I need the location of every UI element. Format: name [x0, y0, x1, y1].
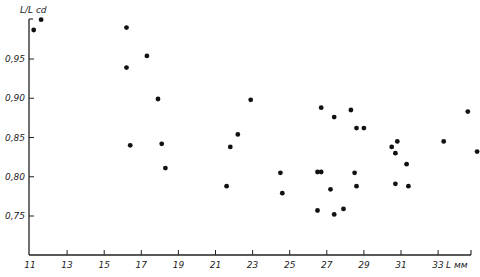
data-point — [465, 109, 470, 114]
y-tick-label: 0,80 — [5, 172, 25, 182]
data-point — [475, 149, 480, 154]
data-point — [124, 25, 129, 30]
data-point — [224, 184, 229, 189]
x-tick-label: 15 — [98, 260, 110, 270]
data-point — [319, 170, 324, 175]
data-point — [156, 97, 161, 102]
data-point — [349, 108, 354, 113]
data-point — [235, 132, 240, 137]
data-point — [319, 105, 324, 110]
x-tick-label: 17 — [136, 260, 148, 270]
x-tick-label: 23 — [247, 260, 259, 270]
y-tick-label: 0,75 — [5, 211, 25, 221]
x-tick-label: 27 — [321, 260, 333, 270]
axes — [29, 19, 471, 255]
x-tick-label: 33 — [432, 260, 444, 270]
data-point — [332, 115, 337, 120]
data-point — [406, 184, 411, 189]
data-point — [362, 126, 367, 131]
x-tick-label: 31 — [395, 260, 406, 270]
data-point — [404, 162, 409, 167]
data-point — [395, 139, 400, 144]
y-axis-title: L/L cd — [20, 5, 47, 15]
x-tick-label: 11 — [24, 260, 35, 270]
x-tick-label: 25 — [284, 260, 296, 270]
scatter-chart: 1113151719212325272931330,750,800,850,90… — [0, 0, 480, 277]
data-point — [332, 212, 337, 217]
data-point — [315, 208, 320, 213]
data-point — [278, 170, 283, 175]
x-tick-label: 21 — [210, 260, 221, 270]
data-point — [354, 126, 359, 131]
data-point — [124, 65, 129, 70]
data-point — [228, 145, 233, 150]
data-point — [441, 139, 446, 144]
data-point — [145, 54, 150, 59]
data-point — [280, 191, 285, 196]
data-point — [393, 151, 398, 156]
data-point — [352, 170, 357, 175]
data-point — [39, 17, 44, 22]
x-tick-label: 19 — [173, 260, 185, 270]
data-point — [354, 184, 359, 189]
data-point — [31, 28, 36, 33]
y-tick-label: 0,85 — [5, 133, 25, 143]
data-point — [248, 97, 253, 102]
data-point — [159, 141, 164, 146]
data-point — [163, 166, 168, 171]
y-tick-label: 0,95 — [5, 54, 25, 64]
data-point — [389, 145, 394, 150]
x-tick-label: 29 — [358, 260, 370, 270]
x-axis-title: L мм — [446, 260, 468, 270]
tick-marks: 1113151719212325272931330,750,800,850,90… — [5, 54, 444, 270]
data-point — [341, 207, 346, 212]
data-points — [31, 17, 479, 217]
x-tick-label: 13 — [61, 260, 73, 270]
y-tick-label: 0,90 — [5, 93, 25, 103]
data-point — [128, 143, 133, 148]
data-point — [328, 187, 333, 192]
data-point — [393, 181, 398, 186]
